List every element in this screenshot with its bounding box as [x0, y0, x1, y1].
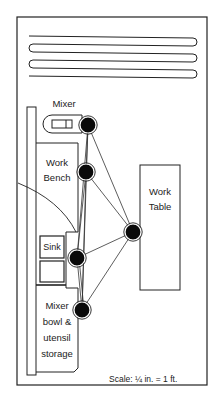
floor-plan — [0, 0, 217, 410]
wall-strip — [27, 107, 36, 375]
node-mixer — [80, 117, 96, 133]
mixer-shape — [43, 115, 82, 133]
label-line: utensil — [36, 330, 78, 346]
label-mixer: Mixer — [44, 96, 84, 111]
label-mixer-bowl-storage: Mixer bowl & utensil storage — [36, 298, 78, 362]
label-work-bench: Work Bench — [36, 155, 78, 185]
label-line: bowl & — [36, 314, 78, 330]
sink-box-2 — [40, 261, 64, 282]
scale-note: Scale: ¼ in. = 1 ft. — [109, 374, 177, 384]
label-line: Work — [140, 184, 180, 199]
label-line: Mixer — [36, 298, 78, 314]
node-sink — [69, 250, 85, 266]
label-line: storage — [36, 346, 78, 362]
serpentine-coil — [29, 36, 197, 78]
flow-nodes — [68, 116, 142, 319]
label-line: Table — [140, 199, 180, 214]
label-sink: Sink — [40, 240, 64, 255]
node-work-table — [125, 224, 141, 240]
label-work-table: Work Table — [140, 184, 180, 214]
label-line: Bench — [36, 170, 78, 185]
label-line: Work — [36, 155, 78, 170]
flow-lines — [77, 125, 133, 310]
node-work-bench — [78, 164, 94, 180]
